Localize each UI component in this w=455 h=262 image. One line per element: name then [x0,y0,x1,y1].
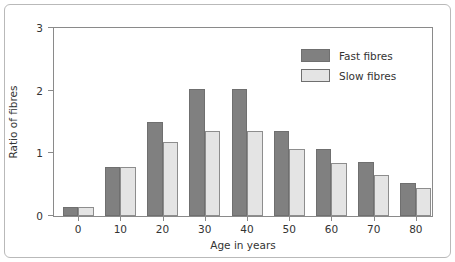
legend-label: Fast fibres [339,50,393,62]
bar-slow-80[interactable] [416,188,432,217]
bar-slow-40[interactable] [247,131,263,217]
bar-group [63,28,94,216]
x-tick-label: 10 [114,223,127,235]
bar-group [400,28,431,216]
legend-item[interactable]: Fast fibres [301,47,396,64]
bar-fast-0[interactable] [63,207,79,217]
bar-fast-30[interactable] [189,89,205,216]
x-tick-label: 40 [240,223,253,235]
y-axis-title: Ratio of fibres [7,85,19,158]
x-tick-label: 0 [75,223,82,235]
legend-swatch-icon [301,69,330,82]
x-tick [163,216,164,221]
legend-label: Slow fibres [339,70,396,82]
x-tick-label: 50 [283,223,296,235]
x-tick-label: 70 [367,223,380,235]
legend-item[interactable]: Slow fibres [301,67,396,84]
bar-slow-60[interactable] [331,163,347,216]
x-tick-label: 30 [198,223,211,235]
x-tick [374,216,375,221]
bar-group [105,28,136,216]
bar-slow-30[interactable] [205,131,221,217]
x-axis-title: Age in years [53,239,433,251]
bar-fast-20[interactable] [147,122,163,216]
bar-fast-50[interactable] [274,131,290,217]
chart-legend: Fast fibresSlow fibres [301,47,396,87]
bar-slow-50[interactable] [289,149,305,216]
y-tick-label: 2 [36,85,43,97]
x-tick-label: 60 [325,223,338,235]
x-tick [78,216,79,221]
y-tick-label: 3 [36,22,43,34]
bar-slow-10[interactable] [120,167,136,216]
legend-swatch-icon [301,49,330,62]
x-tick [247,216,248,221]
x-tick [120,216,121,221]
x-tick [205,216,206,221]
x-tick [416,216,417,221]
x-tick [289,216,290,221]
bar-fast-80[interactable] [400,183,416,216]
y-tick-label: 1 [36,147,43,159]
bar-fast-10[interactable] [105,167,121,216]
x-tick [331,216,332,221]
bar-group [147,28,178,216]
y-tick-label: 0 [36,210,43,222]
bar-fast-60[interactable] [316,149,332,216]
bar-fast-40[interactable] [232,89,248,216]
bar-group [189,28,220,216]
bar-slow-20[interactable] [163,142,179,216]
bar-slow-70[interactable] [374,175,390,216]
x-tick-label: 80 [409,223,422,235]
bar-group [232,28,263,216]
figure-frame: Ratio of fibres 0123 01020304050607080 A… [4,4,451,258]
x-tick-label: 20 [156,223,169,235]
bar-slow-0[interactable] [78,207,94,217]
bar-fast-70[interactable] [358,162,374,216]
